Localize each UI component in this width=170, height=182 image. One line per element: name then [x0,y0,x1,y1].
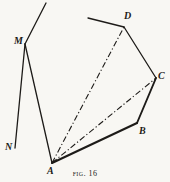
vertex-label-B: B [139,126,146,136]
segment-C-to-B [137,78,156,123]
segment-A-to-D-dashdot [52,27,124,163]
vertex-label-M: M [14,36,23,46]
segment-tail-to-M [25,3,46,44]
figure-drawing-canvas [0,0,170,182]
figure-16: M N A B C D Fig. 16 [0,0,170,182]
vertex-label-D: D [124,11,131,21]
vertex-label-C: C [158,71,165,81]
segment-D-to-C [124,27,156,78]
segment-A-to-C-dashdot [52,78,156,163]
vertex-label-N: N [5,142,12,152]
caption-prefix: Fig. [73,168,87,178]
segment-M-to-A [25,44,52,163]
figure-caption: Fig. 16 [0,168,170,179]
caption-number: 16 [89,169,98,178]
segment-B-to-A [52,123,137,163]
segment-tail-to-D [88,18,124,27]
segment-M-to-N [15,44,25,148]
